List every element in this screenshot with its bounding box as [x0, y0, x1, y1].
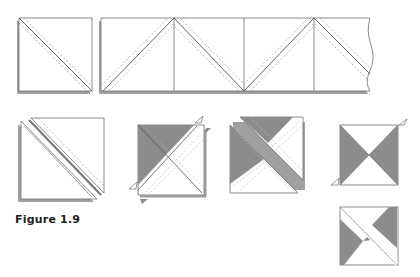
quilt-diagram	[0, 0, 420, 277]
single-square-diagonal	[17, 18, 92, 94]
hourglass-block	[331, 119, 407, 185]
figure-caption: Figure 1.9	[15, 213, 80, 226]
separated-square	[230, 117, 305, 193]
cut-square-pair	[18, 118, 104, 202]
pressed-square	[129, 116, 211, 204]
pinwheel-block	[340, 207, 398, 265]
zigzag-strip	[99, 18, 373, 94]
